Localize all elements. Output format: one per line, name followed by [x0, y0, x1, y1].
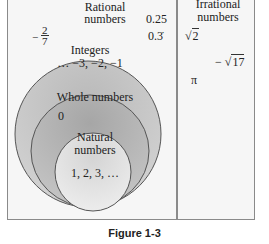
whole-numbers-example: 0 — [58, 110, 64, 123]
fraction-sign: − — [32, 31, 38, 43]
natural-numbers-examples: 1, 2, 3, … — [60, 167, 130, 180]
whole-numbers-title: Whole numbers — [50, 91, 140, 104]
irrational-example-pi: π — [191, 74, 197, 87]
minus-sign: − — [215, 55, 222, 69]
natural-numbers-title-line2: numbers — [60, 144, 130, 157]
figure-caption: Figure 1-3 — [0, 227, 269, 239]
rational-title-line2: numbers — [70, 13, 140, 26]
radicand: 2 — [192, 28, 199, 43]
rational-example-repeating: 0.3̇ — [148, 30, 163, 43]
irrational-title-line2: numbers — [180, 11, 256, 24]
irrational-example-neg-sqrt17: − √17 — [215, 56, 244, 69]
radical-sign: √ — [185, 29, 192, 43]
integers-examples: … −3, −2, −1 — [45, 57, 135, 70]
rational-example-0-25: 0.25 — [146, 13, 167, 26]
fraction-denominator: 7 — [41, 36, 49, 46]
radicand: 17 — [231, 54, 244, 69]
irrational-example-sqrt2: √2 — [185, 30, 199, 43]
